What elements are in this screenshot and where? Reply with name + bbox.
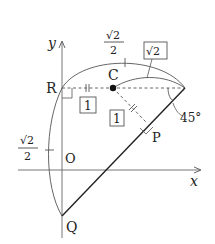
boxed-sqrt2-label: √2 bbox=[146, 45, 160, 58]
leader-line bbox=[147, 59, 152, 78]
boxed-one-diagonal-label: 1 bbox=[113, 112, 121, 126]
point-label-C: C bbox=[108, 67, 119, 83]
angle-label-45: 45° bbox=[180, 111, 201, 125]
boxed-one-horizontal-label: 1 bbox=[84, 99, 92, 113]
diagram-canvas: y x O R C P Q √2 2 √2 2 √2 1 1 45° bbox=[0, 0, 215, 244]
top-fraction-numerator: √2 bbox=[106, 29, 120, 42]
left-fraction-numerator: √2 bbox=[20, 134, 34, 147]
point-label-R: R bbox=[46, 80, 57, 96]
x-axis-label: x bbox=[190, 173, 198, 189]
top-fraction-denominator: 2 bbox=[110, 44, 117, 57]
y-axis-label: y bbox=[47, 35, 57, 51]
angle-arc-45 bbox=[168, 88, 175, 100]
point-C bbox=[110, 85, 116, 91]
small-arc bbox=[113, 78, 185, 89]
left-fraction-denominator: 2 bbox=[24, 150, 31, 163]
right-angle-R bbox=[62, 88, 72, 98]
point-label-Q: Q bbox=[66, 219, 77, 235]
point-label-P: P bbox=[152, 130, 161, 145]
origin-label: O bbox=[65, 151, 76, 166]
